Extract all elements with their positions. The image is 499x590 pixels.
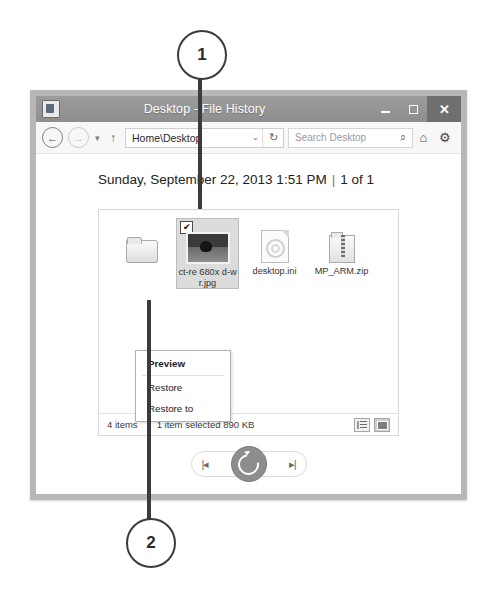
file-item-selected-image[interactable]: ✔ ct-re 680x d-w r.jpg	[176, 218, 239, 289]
previous-version-button[interactable]: |◂	[202, 458, 209, 471]
large-icons-view-icon[interactable]	[374, 418, 390, 432]
up-icon[interactable]: ↑	[105, 131, 121, 145]
window-body: Sunday, September 22, 2013 1:51 PM|1 of …	[36, 154, 461, 494]
callout-marker-1-label: 1	[197, 45, 206, 65]
search-icon[interactable]: ⌕	[394, 131, 412, 144]
file-grid: ✔ ct-re 680x d-w r.jpg desktop.ini	[99, 210, 398, 289]
gear-icon[interactable]: ⚙	[434, 130, 455, 145]
callout-marker-1: 1	[177, 30, 227, 80]
file-item-label: ct-re 680x d-w r.jpg	[177, 267, 238, 288]
file-item-mp-arm-zip[interactable]: MP_ARM.zip	[310, 218, 373, 289]
file-item-folder[interactable]	[109, 218, 172, 289]
date-separator: |	[332, 172, 336, 187]
ini-document-icon	[243, 221, 306, 263]
search-input[interactable]: Search Desktop	[289, 132, 394, 143]
file-item-label: desktop.ini	[243, 266, 306, 277]
callout-marker-2: 2	[126, 518, 176, 568]
folder-icon	[109, 221, 172, 263]
callout-leader-line-2	[147, 300, 151, 520]
minimize-button[interactable]	[371, 96, 399, 122]
window-titlebar[interactable]: Desktop - File History ✕	[36, 96, 461, 122]
address-chevron-down-icon[interactable]: ⌄	[248, 133, 262, 142]
backup-position: 1 of 1	[340, 172, 374, 187]
zip-archive-icon	[310, 221, 373, 263]
playback-pill: |◂ ▸|	[191, 451, 307, 477]
restore-icon	[234, 449, 263, 478]
search-box[interactable]: Search Desktop ⌕	[288, 128, 413, 148]
address-bar[interactable]: Home\Desktop ⌄ ↻	[125, 128, 284, 148]
file-list-pane: ✔ ct-re 680x d-w r.jpg desktop.ini	[98, 209, 399, 436]
restore-button[interactable]	[231, 446, 267, 482]
details-view-icon[interactable]	[354, 418, 370, 432]
refresh-icon[interactable]: ↻	[262, 129, 283, 147]
file-item-desktop-ini[interactable]: desktop.ini	[243, 218, 306, 289]
view-toggle-group	[354, 418, 390, 432]
callout-leader-line-1	[198, 74, 202, 209]
context-menu-separator	[142, 375, 224, 376]
home-icon[interactable]: ⌂	[413, 130, 434, 145]
close-button[interactable]: ✕	[427, 96, 461, 122]
back-icon[interactable]: ←	[42, 127, 63, 148]
screenshot-root: 1 2 Desktop - File History ✕ ← → ▾ ↑ Hom…	[0, 0, 499, 590]
window-title: Desktop - File History	[38, 102, 371, 116]
navigation-toolbar: ← → ▾ ↑ Home\Desktop ⌄ ↻ Search Desktop …	[36, 122, 461, 154]
next-version-button[interactable]: ▸|	[289, 458, 296, 471]
backup-date: Sunday, September 22, 2013 1:51 PM	[98, 172, 327, 187]
maximize-button[interactable]	[399, 96, 427, 122]
playback-controls: |◂ ▸|	[36, 442, 461, 486]
window-controls: ✕	[371, 96, 461, 122]
forward-icon[interactable]: →	[68, 127, 89, 148]
file-history-window: Desktop - File History ✕ ← → ▾ ↑ Home\De…	[30, 90, 467, 500]
backup-date-header: Sunday, September 22, 2013 1:51 PM|1 of …	[98, 172, 461, 187]
file-item-label: MP_ARM.zip	[310, 266, 373, 277]
address-value[interactable]: Home\Desktop	[126, 132, 248, 144]
callout-marker-2-label: 2	[146, 533, 155, 553]
file-history-icon	[42, 100, 60, 118]
chevron-down-icon[interactable]: ▾	[89, 133, 105, 143]
